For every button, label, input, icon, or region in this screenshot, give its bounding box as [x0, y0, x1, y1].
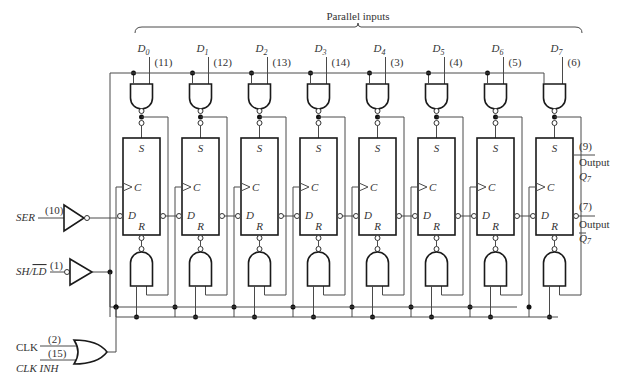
reset-nand-gate-0	[131, 252, 153, 286]
parallel-input-label-3: D3	[314, 42, 327, 57]
parallel-input-label-5: D5	[432, 42, 445, 57]
q7-output-label: Output	[579, 156, 610, 168]
pin-label-d6: (5)	[509, 56, 522, 69]
svg-text:C: C	[134, 181, 142, 193]
svg-text:C: C	[547, 181, 555, 193]
stage-5: D5(4)SCDR	[409, 42, 472, 320]
pin-label-d5: (4)	[450, 56, 463, 69]
shift-register-diagram: Parallel inputs D0(11)SCDRD1(12)SCDRD2(1…	[0, 0, 632, 385]
parallel-input-label-1: D1	[196, 42, 209, 57]
svg-text:S: S	[316, 142, 322, 154]
reset-nand-gate-1	[190, 252, 212, 286]
q7bar-pin-label: (7)	[579, 200, 592, 213]
stage-2: D2(13)SCDR	[232, 42, 295, 320]
clkinh-pin-label: (15)	[48, 347, 67, 360]
svg-text:C: C	[488, 181, 496, 193]
clkinh-label: CLK INH	[16, 362, 60, 374]
svg-text:D: D	[481, 209, 490, 221]
svg-text:S: S	[139, 142, 145, 154]
svg-text:D: D	[422, 209, 431, 221]
svg-text:D: D	[186, 209, 195, 221]
svg-text:C: C	[429, 181, 437, 193]
svg-text:C: C	[370, 181, 378, 193]
set-nand-gate-6	[485, 84, 507, 109]
reset-nand-gate-5	[426, 252, 448, 286]
svg-text:C: C	[311, 181, 319, 193]
svg-text:D: D	[245, 209, 254, 221]
stage-4: D4(3)SCDR	[350, 42, 413, 320]
q7-pin-label: (9)	[579, 140, 592, 153]
set-nand-gate-2	[249, 84, 271, 109]
stage-6: D6(5)SCDR	[468, 42, 531, 320]
set-nand-gate-4	[367, 84, 389, 109]
reset-nand-gate-3	[308, 252, 330, 286]
parallel-input-label-0: D0	[137, 42, 150, 57]
svg-text:D: D	[363, 209, 372, 221]
set-nand-gate-5	[426, 84, 448, 109]
reset-nand-gate-4	[367, 252, 389, 286]
set-nand-gate-0	[131, 84, 153, 109]
parallel-inputs-brace: Parallel inputs	[135, 10, 582, 33]
svg-text:S: S	[552, 142, 558, 154]
shld-buffer-gate	[70, 259, 92, 285]
parallel-input-label-2: D2	[255, 42, 268, 57]
reset-nand-gate-6	[485, 252, 507, 286]
parallel-inputs-label: Parallel inputs	[326, 10, 389, 22]
clk-pin-label: (2)	[48, 333, 61, 346]
svg-text:D: D	[540, 209, 549, 221]
parallel-input-label-4: D4	[373, 42, 386, 57]
svg-text:C: C	[193, 181, 201, 193]
ser-inverter-gate	[64, 205, 84, 231]
stage-3: D3(14)SCDR	[291, 42, 354, 320]
svg-text:S: S	[257, 142, 263, 154]
pin-label-d3: (14)	[332, 56, 351, 69]
pin-label-d0: (11)	[155, 56, 173, 69]
clk-label: CLK	[16, 341, 38, 353]
svg-text:D: D	[127, 209, 136, 221]
stage-0: D0(11)SCDR	[114, 42, 177, 320]
pin-label-d7: (6)	[568, 56, 581, 69]
svg-text:S: S	[375, 142, 381, 154]
stage-7: D7(6)SCDR	[527, 42, 582, 320]
outputs: (9)OutputQ7(7)OutputQ7	[573, 140, 610, 246]
svg-text:D: D	[304, 209, 313, 221]
svg-text:Q7: Q7	[579, 170, 592, 184]
pin-label-d1: (12)	[214, 56, 233, 69]
pin-label-d4: (3)	[391, 56, 404, 69]
reset-nand-gate-2	[249, 252, 271, 286]
svg-text:S: S	[198, 142, 204, 154]
ser-pin-label: (10)	[45, 204, 64, 217]
reset-nand-gate-7	[544, 252, 566, 286]
stage-1: D1(12)SCDR	[173, 42, 236, 320]
svg-text:R: R	[550, 220, 558, 232]
svg-text:R: R	[373, 220, 381, 232]
svg-text:R: R	[432, 220, 440, 232]
set-nand-gate-3	[308, 84, 330, 109]
set-nand-gate-7	[544, 84, 566, 109]
svg-text:C: C	[252, 181, 260, 193]
svg-text:S: S	[434, 142, 440, 154]
parallel-input-label-7: D7	[550, 42, 564, 57]
pin-label-d2: (13)	[273, 56, 292, 69]
parallel-input-label-6: D6	[491, 42, 504, 57]
svg-text:R: R	[491, 220, 499, 232]
q7bar-output-label: Output	[579, 218, 610, 230]
svg-text:R: R	[196, 220, 204, 232]
svg-text:R: R	[314, 220, 322, 232]
set-nand-gate-1	[190, 84, 212, 109]
clock-or-gate	[74, 340, 107, 364]
svg-text:R: R	[255, 220, 263, 232]
svg-text:S: S	[493, 142, 499, 154]
ser-label: SER	[16, 211, 35, 223]
svg-text:Q7: Q7	[579, 232, 592, 246]
shld-pin-label: (1)	[50, 259, 63, 272]
svg-text:R: R	[137, 220, 145, 232]
shld-label: SH/LD	[16, 265, 47, 277]
